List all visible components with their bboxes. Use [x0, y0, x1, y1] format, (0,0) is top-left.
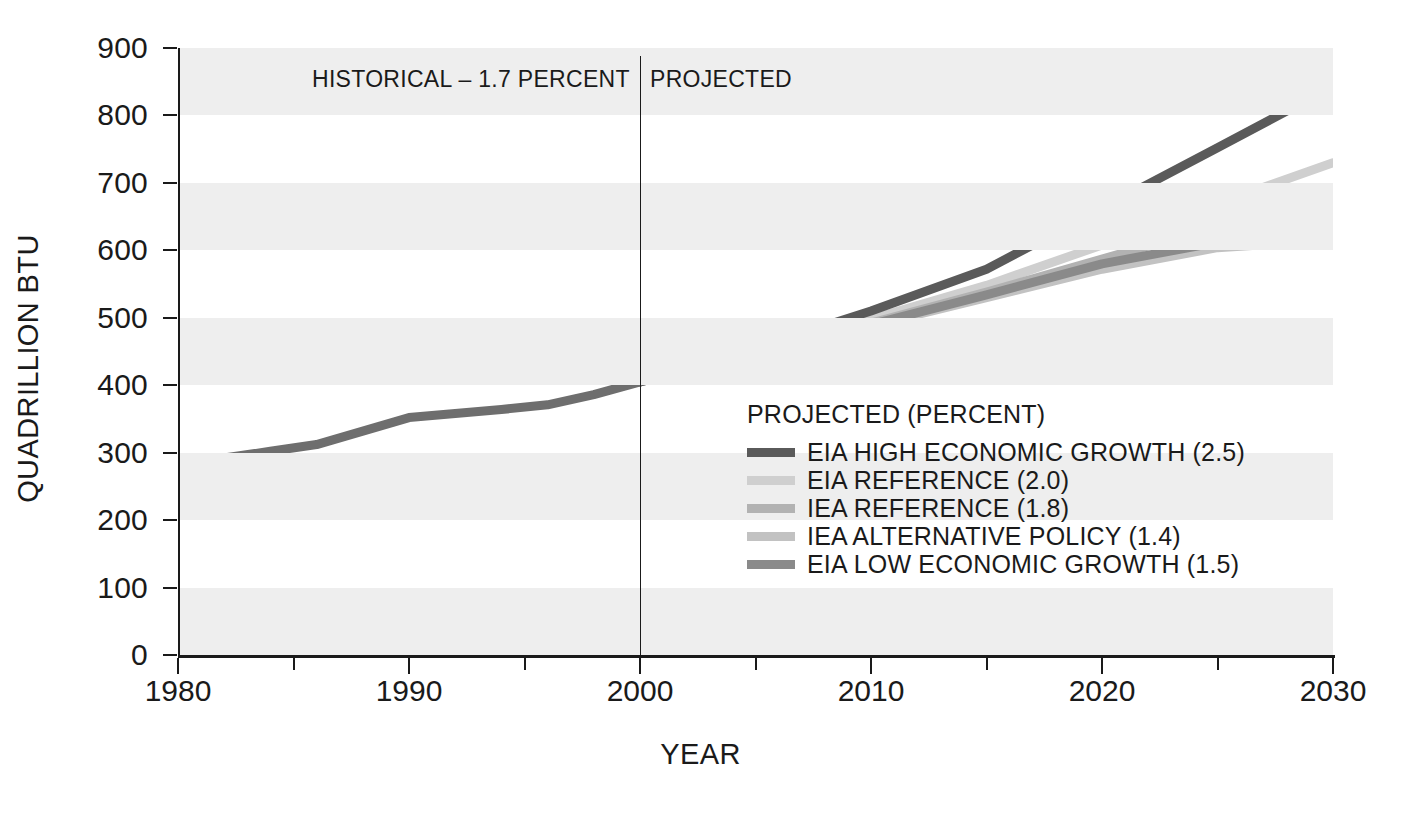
- x-axis-tick-label: 2020: [1069, 676, 1136, 706]
- background-band: [178, 318, 1333, 385]
- x-axis-minor-tick-mark: [755, 658, 757, 670]
- x-axis-minor-tick-mark: [524, 658, 526, 670]
- x-axis-minor-tick-mark: [986, 658, 988, 670]
- legend-swatch: [747, 448, 795, 457]
- legend-label: IEA ALTERNATIVE POLICY (1.4): [807, 522, 1181, 551]
- x-axis-tick-label: 1990: [376, 676, 443, 706]
- y-axis-tick-mark: [163, 384, 177, 386]
- background-band: [178, 588, 1333, 655]
- x-axis-tick-mark: [870, 658, 872, 674]
- x-axis-minor-tick-mark: [293, 658, 295, 670]
- y-axis-tick-mark: [163, 654, 177, 656]
- historical-annotation: HISTORICAL – 1.7 PERCENT: [312, 66, 630, 93]
- y-axis-tick-mark: [163, 317, 177, 319]
- x-axis-line: [178, 655, 1335, 658]
- x-axis-tick-mark: [639, 658, 641, 674]
- y-axis-label: QUADRILLION BTU: [12, 69, 45, 669]
- legend-item: EIA HIGH ECONOMIC GROWTH (2.5): [747, 438, 1245, 466]
- legend-label: EIA REFERENCE (2.0): [807, 466, 1069, 495]
- legend-label: EIA HIGH ECONOMIC GROWTH (2.5): [807, 438, 1245, 467]
- y-axis-tick-mark: [163, 452, 177, 454]
- legend-label: EIA LOW ECONOMIC GROWTH (1.5): [807, 550, 1239, 579]
- x-axis-tick-label: 2010: [838, 676, 905, 706]
- chart-figure: 0100200300400500600700800900 19801990200…: [0, 0, 1401, 822]
- y-axis-tick-mark: [163, 249, 177, 251]
- x-axis-tick-label: 2000: [607, 676, 674, 706]
- y-axis-tick-mark: [163, 47, 177, 49]
- x-axis-tick-label: 1980: [145, 676, 212, 706]
- legend-item: IEA ALTERNATIVE POLICY (1.4): [747, 522, 1245, 550]
- y-axis-tick-mark: [163, 519, 177, 521]
- legend-item: EIA REFERENCE (2.0): [747, 466, 1245, 494]
- x-axis-tick-mark: [408, 658, 410, 674]
- legend-label: IEA REFERENCE (1.8): [807, 494, 1069, 523]
- x-axis-tick-mark: [1101, 658, 1103, 674]
- chart-legend: PROJECTED (PERCENT) EIA HIGH ECONOMIC GR…: [747, 400, 1245, 578]
- background-band: [178, 183, 1333, 250]
- x-axis-minor-tick-mark: [1217, 658, 1219, 670]
- x-axis-tick-mark: [177, 658, 179, 674]
- historical-projected-divider: [640, 56, 641, 655]
- legend-title: PROJECTED (PERCENT): [747, 400, 1245, 429]
- legend-swatch: [747, 560, 795, 569]
- historical-line: [178, 382, 640, 463]
- y-axis-tick-label: 900: [22, 33, 148, 63]
- legend-swatch: [747, 504, 795, 513]
- y-axis-line: [178, 48, 180, 657]
- y-axis-tick-mark: [163, 182, 177, 184]
- legend-swatch: [747, 476, 795, 485]
- x-axis-tick-label: 2030: [1300, 676, 1367, 706]
- x-axis-label: YEAR: [0, 738, 1401, 771]
- x-axis-tick-mark: [1332, 658, 1334, 674]
- legend-items: EIA HIGH ECONOMIC GROWTH (2.5)EIA REFERE…: [747, 438, 1245, 578]
- y-axis-tick-mark: [163, 587, 177, 589]
- legend-item: EIA LOW ECONOMIC GROWTH (1.5): [747, 550, 1245, 578]
- projected-annotation: PROJECTED: [650, 66, 792, 93]
- legend-item: IEA REFERENCE (1.8): [747, 494, 1245, 522]
- y-axis-tick-mark: [163, 114, 177, 116]
- legend-swatch: [747, 532, 795, 541]
